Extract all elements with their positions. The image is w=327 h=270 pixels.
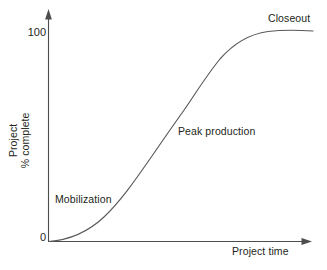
y-axis-tick-100: 100 — [16, 26, 46, 38]
y-axis-title-line-1: Project — [7, 97, 19, 183]
y-axis-title: Project % complete — [7, 97, 32, 183]
x-axis-arrowhead — [302, 238, 313, 245]
y-axis-tick-0: 0 — [16, 231, 46, 243]
y-axis-arrowhead — [45, 9, 52, 20]
annotation-mobilization: Mobilization — [55, 193, 112, 205]
y-axis-title-line-2: % complete — [19, 97, 31, 183]
x-axis-title: Project time — [232, 245, 289, 257]
annotation-closeout: Closeout — [268, 12, 310, 24]
project-s-curve-figure: 100 0 Project time Project % complete Mo… — [0, 0, 327, 270]
annotation-peak-production: Peak production — [178, 125, 255, 137]
chart-canvas — [0, 0, 327, 270]
